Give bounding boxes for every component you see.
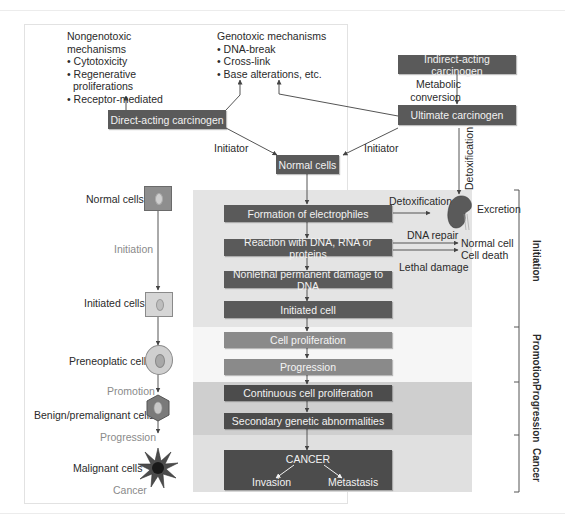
cancer-box: CANCER Invasion Metastasis <box>224 450 392 490</box>
metastasis-label: Metastasis <box>328 476 378 488</box>
step-initiated-cell: Initiated cell <box>224 301 392 318</box>
step-reaction-with-dna: Reaction with DNA, RNA or proteins <box>224 239 392 256</box>
genotoxic-item: • Cross-link <box>217 55 326 68</box>
cell-label-preneoplastic: Preneoplatic cells <box>69 355 151 368</box>
nongenotoxic-item: • Regenerative <box>67 68 163 81</box>
step-nonlethal-damage: Nonlethal permanent damage to DNA <box>224 271 392 288</box>
normal-cell-label: Normal cell <box>461 237 514 250</box>
metabolic-label-line-2: conversion <box>410 91 461 104</box>
nongenotoxic-title-line-2: mechanisms <box>67 43 163 56</box>
cell-death-label: Cell death <box>461 249 508 262</box>
step-secondary-genetic-abnormalities: Secondary genetic abnormalities <box>224 413 392 429</box>
normal-cell-icon <box>144 186 172 211</box>
nongenotoxic-item: • Cytotoxicity <box>67 55 163 68</box>
bottom-divider <box>0 513 565 514</box>
step-continuous-cell-proliferation: Continuous cell proliferation <box>224 385 392 401</box>
transition-initiation: Initiation <box>114 243 153 256</box>
cell-label-initiated: Initiated cells <box>84 297 145 310</box>
normal-cells-box: Normal cells <box>276 155 339 174</box>
dna-repair-label: DNA repair <box>407 229 458 242</box>
cell-label-benign: Benign/premalignant cells <box>34 409 154 422</box>
top-divider <box>0 10 565 11</box>
initiator-left-label: Initiator <box>214 142 248 155</box>
genotoxic-mechanisms: Genotoxic mechanisms • DNA-break • Cross… <box>217 30 326 80</box>
nongenotoxic-item: proliferations <box>67 80 163 93</box>
cell-label-normal: Normal cells <box>86 193 144 206</box>
nongenotoxic-title-line-1: Nongenotoxic <box>67 30 163 43</box>
detoxification-vertical-label: Detoxification <box>463 130 476 190</box>
transition-cancer: Cancer <box>113 484 147 497</box>
initiator-right-label: Initiator <box>364 142 398 155</box>
initiated-cell-icon <box>145 292 173 317</box>
ultimate-carcinogen-box: Ultimate carcinogen <box>398 105 516 125</box>
transition-progression: Progression <box>100 431 156 444</box>
genotoxic-title: Genotoxic mechanisms <box>217 30 326 43</box>
malignant-cell-icon <box>137 447 179 489</box>
direct-acting-carcinogen-box: Direct-acting carcinogen <box>108 110 226 129</box>
detoxification-label: Detoxification <box>389 195 452 208</box>
genotoxic-item: • Base alterations, etc. <box>217 68 326 81</box>
benign-cell-icon <box>146 394 170 422</box>
stage-label-initiation: Initiation <box>531 240 542 282</box>
stage-label-cancer: Cancer <box>531 448 542 482</box>
genotoxic-item: • DNA-break <box>217 43 326 56</box>
excretion-label: Excretion <box>477 203 521 216</box>
step-formation-of-electrophiles: Formation of electrophiles <box>224 205 392 222</box>
metabolic-conversion-label: Metabolic conversion <box>410 78 461 103</box>
cell-label-malignant: Malignant cells <box>73 462 142 475</box>
invasion-label: Invasion <box>252 476 291 488</box>
step-cell-proliferation: Cell proliferation <box>224 332 392 348</box>
step-progression: Progression <box>224 359 392 375</box>
nongenotoxic-item: • Receptor-mediated <box>67 93 163 106</box>
indirect-acting-carcinogen-box: Indirect-acting carcinogen <box>398 55 516 74</box>
metabolic-label-line-1: Metabolic <box>410 78 461 91</box>
stage-label-progression: Progression <box>531 384 542 442</box>
lethal-damage-label: Lethal damage <box>399 261 468 274</box>
preneoplastic-cell-icon <box>145 345 173 375</box>
nongenotoxic-title: Nongenotoxic mechanisms • Cytotoxicity •… <box>67 30 163 105</box>
stage-label-promotion: Promotion <box>531 334 542 384</box>
kidney-icon <box>446 194 474 232</box>
